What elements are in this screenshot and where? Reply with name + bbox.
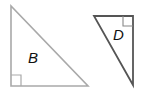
right-angle-marker-b [11, 75, 21, 86]
triangle-d: D [94, 16, 133, 85]
triangle-b-outline [11, 6, 88, 86]
diagram-canvas: B D [0, 0, 141, 102]
triangle-b: B [11, 6, 88, 86]
triangle-d-label: D [113, 26, 124, 43]
right-angle-marker-d [123, 16, 133, 26]
triangle-b-label: B [28, 49, 38, 66]
